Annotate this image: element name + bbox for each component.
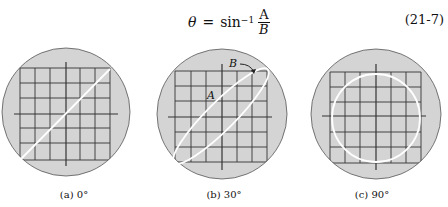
eq-denominator: B xyxy=(259,23,269,37)
eq-sin: sin xyxy=(220,14,241,30)
caption-a: (a) 0° xyxy=(0,189,148,200)
oscilloscope-screen-b: B A xyxy=(150,44,298,184)
eq-equals: = xyxy=(202,14,214,30)
oscilloscope-screen-c xyxy=(298,44,446,184)
scope-figure-b: B A (b) 30° xyxy=(150,44,298,207)
oscilloscope-screen-a xyxy=(0,44,148,184)
label-A: A xyxy=(206,89,215,102)
eq-fraction: A B xyxy=(258,8,269,37)
label-B: B xyxy=(228,57,237,70)
eq-inverse-superscript: −1 xyxy=(241,15,254,25)
caption-b: (b) 30° xyxy=(150,189,298,200)
caption-c: (c) 90° xyxy=(298,189,446,200)
scope-figure-c: (c) 90° xyxy=(298,44,446,207)
scope-figure-a: (a) 0° xyxy=(0,44,148,207)
eq-numerator: A xyxy=(258,8,269,23)
equation-21-7: θ = sin −1 A B xyxy=(188,4,270,40)
equation-number: (21-7) xyxy=(405,12,444,27)
eq-theta: θ xyxy=(188,14,196,30)
